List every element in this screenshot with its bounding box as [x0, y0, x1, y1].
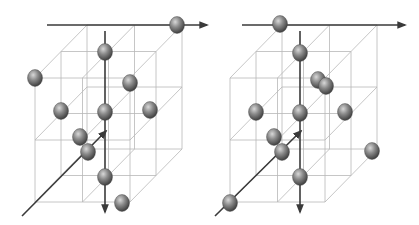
- left-lattice: [22, 17, 207, 217]
- atom-sphere: [338, 104, 353, 121]
- atom-sphere: [365, 143, 380, 160]
- figure: [0, 0, 419, 225]
- atom-sphere: [28, 70, 43, 87]
- atom-sphere: [123, 75, 138, 92]
- atom-sphere: [98, 44, 113, 61]
- atom-sphere: [223, 195, 238, 212]
- atom-sphere: [81, 144, 96, 161]
- atom-sphere: [249, 104, 264, 121]
- atom-sphere: [115, 195, 130, 212]
- atom-sphere: [293, 169, 308, 186]
- right-lattice: [215, 16, 405, 217]
- atom-sphere: [275, 144, 290, 161]
- atoms: [28, 17, 185, 212]
- atom-sphere: [273, 16, 288, 33]
- lattice-diagram: [0, 0, 419, 225]
- atom-sphere: [143, 102, 158, 119]
- atom-sphere: [98, 104, 113, 121]
- atoms: [223, 16, 380, 212]
- atom-sphere: [73, 129, 88, 146]
- atom-sphere: [267, 129, 282, 146]
- atom-sphere: [293, 45, 308, 62]
- atom-sphere: [319, 78, 334, 95]
- atom-sphere: [98, 169, 113, 186]
- atom-sphere: [170, 17, 185, 34]
- atom-sphere: [293, 105, 308, 122]
- atom-sphere: [54, 103, 69, 120]
